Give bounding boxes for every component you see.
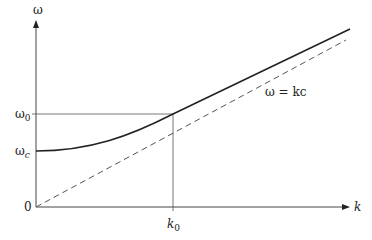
light-line (36, 40, 346, 207)
x-axis-label: k (354, 200, 361, 214)
asymptote-label: ω = kc (265, 85, 307, 99)
omega-c-label: ωc (15, 144, 30, 160)
dispersion-diagram: ω k 0 ω0 ωc k0 ω = kc (0, 0, 372, 240)
k-0-label: k0 (167, 217, 180, 233)
y-axis-label: ω (33, 3, 43, 17)
omega-0-label: ω0 (15, 107, 31, 123)
origin-label: 0 (24, 200, 32, 214)
